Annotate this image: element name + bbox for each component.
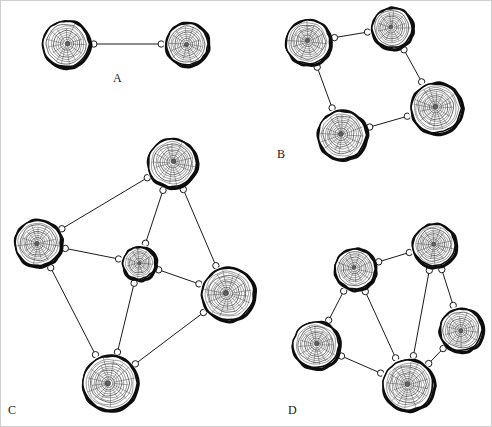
edge-endpoint-marker [158,41,164,47]
tree-ring-node-icon[interactable] [411,222,458,269]
tree-ring-node-icon[interactable] [13,218,64,269]
tree-ring-node-icon[interactable] [409,81,464,136]
tree-ring-node-icon[interactable] [284,18,333,67]
tree-ring-node-icon[interactable] [121,245,158,282]
network-diagram-canvas [0,0,492,427]
tree-ring-node-icon[interactable] [41,19,92,70]
panel-label-c: C [8,404,16,416]
tree-ring-node-icon[interactable] [438,307,485,354]
panel-label-b: B [277,148,285,160]
tree-ring-node-icon[interactable] [316,109,369,162]
tree-ring-node-icon[interactable] [81,354,140,413]
tree-ring-node-icon[interactable] [333,247,378,292]
panel-label-d: D [288,404,297,416]
tree-ring-node-icon[interactable] [370,6,415,51]
tree-ring-node-icon[interactable] [164,21,211,68]
tree-ring-node-icon[interactable] [146,137,199,190]
tree-ring-node-icon[interactable] [200,266,257,323]
panel-label-a: A [113,72,122,84]
figure-container: A B C D [0,0,492,427]
tree-ring-node-icon[interactable] [381,358,436,413]
tree-ring-node-icon[interactable] [291,320,342,371]
